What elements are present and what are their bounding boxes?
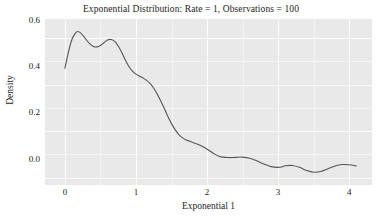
x-axis-title: Exponential 1 <box>45 201 372 211</box>
y-axis-title: Density <box>5 55 15 125</box>
y-tick-label-060: 0.6 <box>0 15 40 25</box>
x-tick-label-3: 3 <box>265 187 291 197</box>
y-tick-label-000: 0.0 <box>0 154 40 164</box>
x-tick-label-0: 0 <box>52 187 78 197</box>
x-tick-label-2: 2 <box>194 187 220 197</box>
chart-figure: Exponential Distribution: Rate = 1, Obse… <box>0 0 382 222</box>
x-tick-label-1: 1 <box>123 187 149 197</box>
x-tick-label-4: 4 <box>336 187 362 197</box>
